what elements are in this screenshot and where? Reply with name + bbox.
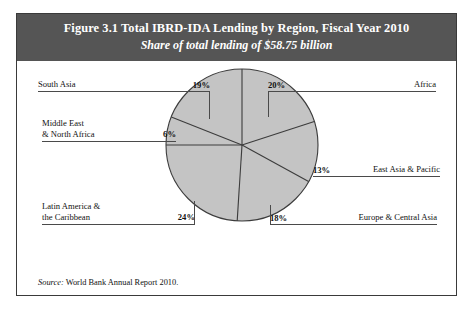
label-latin-america-line2: the Caribbean	[42, 212, 90, 222]
source-note: Source: World Bank Annual Report 2010.	[38, 278, 178, 287]
percent-africa: 20%	[268, 80, 285, 90]
percent-south-asia: 19%	[193, 80, 210, 90]
leader-line-europe	[270, 224, 437, 225]
leader-line-middle-east	[42, 141, 176, 142]
leader-line-latin-america	[42, 224, 195, 225]
leader-drop-latin-america	[194, 201, 195, 224]
leader-line-east-asia	[313, 176, 440, 177]
label-east-asia: East Asia & Pacific	[373, 164, 440, 175]
label-south-asia: South Asia	[38, 79, 75, 90]
leader-drop-europe	[270, 205, 271, 224]
leader-drop-africa	[268, 91, 269, 117]
label-middle-east: Middle East & North Africa	[42, 118, 95, 139]
figure-title: Figure 3.1 Total IBRD-IDA Lending by Reg…	[17, 21, 456, 36]
callout-africa: 20% Africa	[268, 79, 436, 90]
source-label: Source:	[38, 278, 64, 287]
leader-line-south-asia	[38, 91, 210, 92]
figure-container: Figure 3.1 Total IBRD-IDA Lending by Reg…	[16, 13, 457, 296]
label-latin-america: Latin America & the Caribbean	[42, 201, 100, 222]
callout-latin-america: Latin America & the Caribbean 24%	[42, 201, 195, 222]
label-latin-america-line1: Latin America &	[42, 201, 100, 211]
source-text: World Bank Annual Report 2010.	[64, 278, 179, 287]
percent-europe: 18%	[270, 213, 287, 223]
callout-east-asia: 13% East Asia & Pacific	[313, 164, 440, 175]
percent-middle-east: 6%	[163, 129, 176, 139]
callout-europe: 18% Europe & Central Asia	[270, 212, 437, 223]
label-europe: Europe & Central Asia	[358, 212, 437, 223]
chart-plot-area: South Asia 19% 20% Africa Middle East & …	[17, 61, 456, 297]
callout-middle-east: Middle East & North Africa 6%	[42, 118, 176, 139]
leader-line-africa	[268, 91, 436, 92]
leader-drop-south-asia	[209, 91, 210, 119]
percent-east-asia: 13%	[313, 165, 330, 175]
figure-subtitle: Share of total lending of $58.75 billion	[17, 38, 456, 53]
percent-latin-america: 24%	[178, 212, 195, 222]
label-africa: Africa	[414, 79, 436, 90]
figure-title-banner: Figure 3.1 Total IBRD-IDA Lending by Reg…	[17, 14, 456, 61]
label-middle-east-line2: & North Africa	[42, 129, 95, 139]
label-middle-east-line1: Middle East	[42, 118, 84, 128]
callout-south-asia: South Asia 19%	[38, 79, 210, 90]
